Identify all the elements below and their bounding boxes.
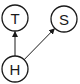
edges: [15, 29, 55, 60]
node-t: T: [2, 5, 28, 31]
node-h: H: [2, 56, 28, 82]
causal-graph: TSH: [0, 0, 80, 84]
node-label: S: [59, 11, 69, 28]
edge-h-to-s: [24, 29, 54, 60]
node-s: S: [51, 6, 77, 32]
node-label: T: [10, 10, 19, 27]
node-label: H: [10, 61, 21, 78]
